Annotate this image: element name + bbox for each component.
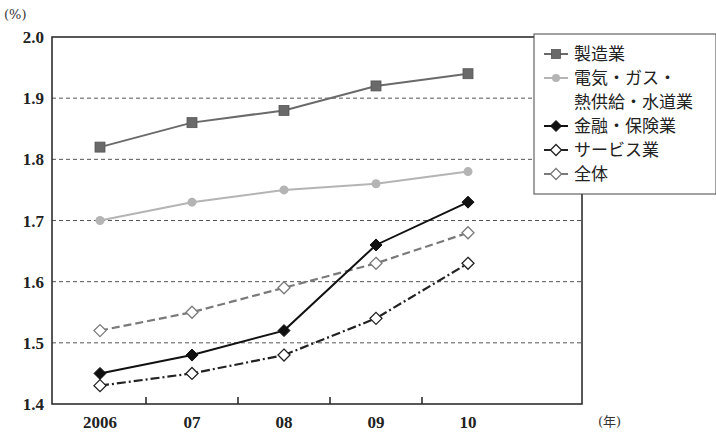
legend-label: 熱供給・水道業 [574,92,693,112]
marker-circle [188,198,197,207]
marker-diamond-open [370,312,382,324]
marker-diamond-open [186,306,198,318]
marker-square [95,142,105,152]
x-tick-label: 2006 [83,413,117,432]
series-line [95,69,473,152]
marker-square [279,105,289,115]
marker-diamond-filled [462,196,474,208]
y-tick-label: 1.6 [23,273,44,292]
x-tick-label: 09 [368,413,385,432]
marker-diamond-open [186,367,198,379]
marker-diamond-open [94,325,106,337]
x-tick-label: 08 [276,413,293,432]
marker-diamond-open [278,349,290,361]
marker-square [552,50,561,59]
series-line [96,167,473,225]
y-tick-label: 1.7 [23,212,45,231]
x-tick-label: 07 [184,413,202,432]
legend-label: 金融・保険業 [574,116,676,136]
y-tick-label: 1.8 [23,150,44,169]
gridlines [52,98,582,343]
marker-diamond-open [94,380,106,392]
marker-circle [552,74,560,82]
series-polyline [100,172,468,221]
legend-label: サービス業 [574,140,659,160]
legend: 製造業電気・ガス・熱供給・水道業金融・保険業サービス業全体 [534,34,716,194]
marker-circle [372,179,381,188]
marker-diamond-open [462,257,474,269]
line-chart: 1.41.51.61.71.81.92.0200607080910(%)(年) … [0,0,716,436]
y-tick-label: 2.0 [23,28,44,47]
marker-square [371,81,381,91]
legend-label: 製造業 [574,44,625,64]
y-tick-label: 1.4 [23,395,45,414]
marker-diamond-filled [186,349,198,361]
marker-diamond-open [278,282,290,294]
marker-square [187,118,197,128]
legend-label: 電気・ガス・ [574,68,676,88]
marker-diamond-open [462,227,474,239]
x-axis-unit-label: (年) [598,414,621,429]
legend-label: 全体 [574,164,608,184]
legend-box [534,34,716,194]
marker-circle [96,216,105,225]
marker-circle [464,167,473,176]
x-tick-label: 10 [460,413,477,432]
marker-square [463,69,473,79]
marker-circle [280,185,289,194]
y-axis-unit-label: (%) [4,7,27,22]
y-tick-label: 1.5 [23,334,44,353]
y-tick-label: 1.9 [23,89,44,108]
marker-diamond-filled [94,367,106,379]
marker-diamond-open [370,257,382,269]
